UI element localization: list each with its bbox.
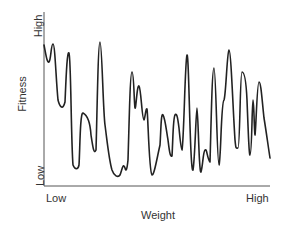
y-axis-title: Fitness — [16, 76, 28, 111]
y-axis-high-label: High — [32, 15, 44, 38]
fitness-chart: High Low Fitness Low High Weight — [0, 0, 291, 230]
x-axis-low-label: Low — [46, 192, 66, 204]
x-axis-high-label: High — [246, 192, 269, 204]
y-axis-low-label: Low — [34, 166, 46, 186]
x-axis-title: Weight — [141, 209, 175, 221]
fitness-curve — [44, 42, 270, 176]
